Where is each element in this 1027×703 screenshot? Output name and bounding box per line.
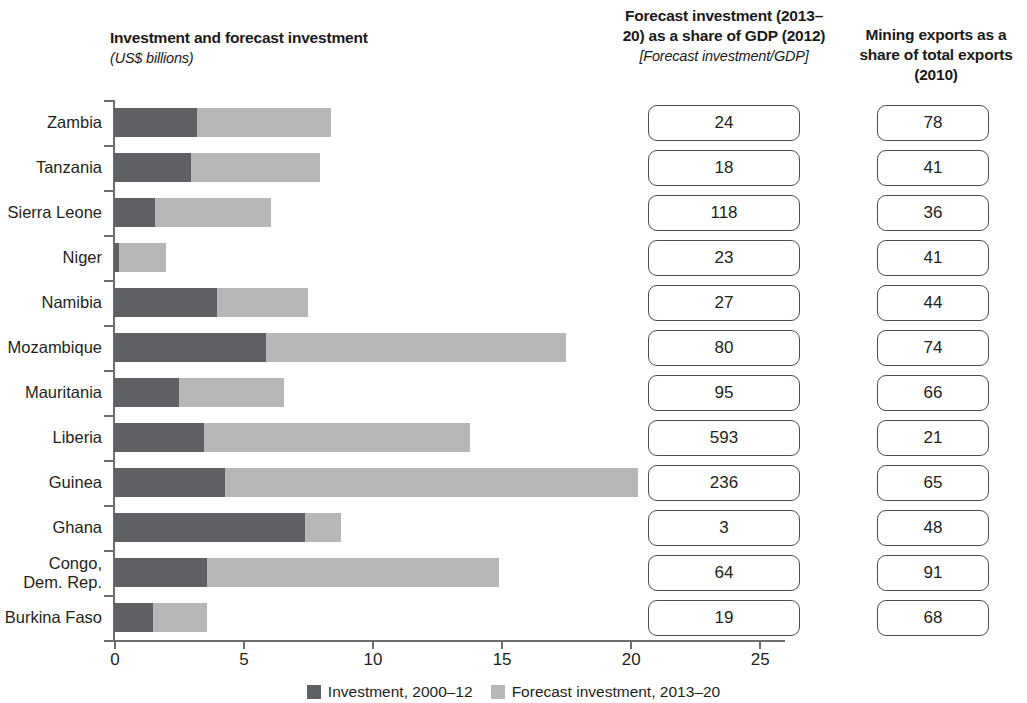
mining-share-value: 48 xyxy=(877,510,989,546)
legend-swatch xyxy=(307,685,321,699)
y-axis-tick xyxy=(104,370,114,372)
stacked-bar xyxy=(114,378,284,407)
x-axis-tick xyxy=(243,640,245,649)
chart-row: Mozambique8074 xyxy=(0,325,1027,370)
stacked-bar xyxy=(114,198,271,227)
y-axis-tick xyxy=(104,415,114,417)
y-axis-tick xyxy=(104,460,114,462)
x-axis-tick xyxy=(630,640,632,649)
bar-segment-investment xyxy=(114,333,266,362)
legend-swatch xyxy=(491,685,505,699)
chart-row: Sierra Leone11836 xyxy=(0,190,1027,235)
country-label: Guinea xyxy=(0,460,112,505)
y-axis-tick xyxy=(104,235,114,237)
bar-segment-forecast xyxy=(207,558,499,587)
chart-row: Namibia2744 xyxy=(0,280,1027,325)
mining-share-value: 21 xyxy=(877,420,989,456)
gdp-share-value: 118 xyxy=(648,195,800,231)
bar-segment-investment xyxy=(114,603,153,632)
bar-segment-forecast xyxy=(225,468,638,497)
chart-row: Liberia59321 xyxy=(0,415,1027,460)
x-axis-tick-label: 15 xyxy=(482,650,522,670)
mining-share-value: 41 xyxy=(877,150,989,186)
stacked-bar xyxy=(114,603,207,632)
x-axis-tick xyxy=(114,640,116,649)
legend-label: Forecast investment, 2013–20 xyxy=(512,683,721,701)
y-axis-tick xyxy=(104,505,114,507)
bar-segment-forecast xyxy=(305,513,341,542)
bar-segment-investment xyxy=(114,378,179,407)
gdp-column-title-block: Forecast investment (2013–20) as a share… xyxy=(615,6,833,66)
bar-segment-investment xyxy=(114,288,217,317)
mining-share-value: 41 xyxy=(877,240,989,276)
chart-rows: Zambia2478Tanzania1841Sierra Leone11836N… xyxy=(0,100,1027,640)
chart-row: Guinea23665 xyxy=(0,460,1027,505)
y-axis-tick xyxy=(104,190,114,192)
bar-segment-forecast xyxy=(204,423,470,452)
gdp-column-subtitle: [Forecast investment/GDP] xyxy=(615,46,833,66)
bar-segment-investment xyxy=(114,153,191,182)
country-label: Ghana xyxy=(0,505,112,550)
stacked-bar xyxy=(114,423,470,452)
stacked-bar xyxy=(114,288,308,317)
chart-row: Congo, Dem. Rep.6491 xyxy=(0,550,1027,595)
country-label: Burkina Faso xyxy=(0,595,112,640)
stacked-bar xyxy=(114,558,499,587)
bar-segment-forecast xyxy=(217,288,307,317)
y-axis-tick xyxy=(104,550,114,552)
gdp-share-value: 64 xyxy=(648,555,800,591)
column-headers: Investment and forecast investment (US$ … xyxy=(0,0,1027,100)
x-axis-tick-label: 20 xyxy=(611,650,651,670)
gdp-share-value: 23 xyxy=(648,240,800,276)
x-axis-tick-label: 25 xyxy=(740,650,780,670)
bar-segment-investment xyxy=(114,198,155,227)
mining-share-value: 74 xyxy=(877,330,989,366)
chart-title: Investment and forecast investment xyxy=(110,29,368,46)
gdp-share-value: 95 xyxy=(648,375,800,411)
stacked-bar xyxy=(114,153,320,182)
mining-column-title-block: Mining exports as a share of total expor… xyxy=(845,25,1027,85)
legend-item: Forecast investment, 2013–20 xyxy=(491,683,721,701)
mining-share-value: 91 xyxy=(877,555,989,591)
gdp-share-value: 3 xyxy=(648,510,800,546)
country-label: Congo, Dem. Rep. xyxy=(0,550,112,595)
country-label: Niger xyxy=(0,235,112,280)
mining-share-value: 66 xyxy=(877,375,989,411)
country-label: Tanzania xyxy=(0,145,112,190)
x-axis-tick-label: 5 xyxy=(224,650,264,670)
chart-units-label: (US$ billions) xyxy=(110,48,510,68)
gdp-share-value: 19 xyxy=(648,600,800,636)
x-axis: 0510152025 xyxy=(0,640,1027,670)
y-axis-tick xyxy=(104,145,114,147)
bar-segment-forecast xyxy=(266,333,565,362)
country-label: Sierra Leone xyxy=(0,190,112,235)
chart-row: Mauritania9566 xyxy=(0,370,1027,415)
bar-segment-forecast xyxy=(191,153,320,182)
bar-segment-investment xyxy=(114,423,204,452)
chart-row: Tanzania1841 xyxy=(0,145,1027,190)
stacked-bar xyxy=(114,468,638,497)
chart-row: Burkina Faso1968 xyxy=(0,595,1027,640)
bar-segment-forecast xyxy=(155,198,271,227)
stacked-bar xyxy=(114,108,331,137)
bar-segment-forecast xyxy=(197,108,331,137)
country-label: Liberia xyxy=(0,415,112,460)
country-label: Zambia xyxy=(0,100,112,145)
bar-segment-forecast xyxy=(153,603,207,632)
chart-row: Niger2341 xyxy=(0,235,1027,280)
gdp-share-value: 24 xyxy=(648,105,800,141)
y-axis-tick xyxy=(104,280,114,282)
mining-share-value: 78 xyxy=(877,105,989,141)
chart-title-block: Investment and forecast investment (US$ … xyxy=(110,28,510,68)
mining-share-value: 36 xyxy=(877,195,989,231)
gdp-share-value: 593 xyxy=(648,420,800,456)
country-label: Mauritania xyxy=(0,370,112,415)
chart-row: Zambia2478 xyxy=(0,100,1027,145)
legend-label: Investment, 2000–12 xyxy=(328,683,473,701)
stacked-bar xyxy=(114,513,341,542)
legend: Investment, 2000–12Forecast investment, … xyxy=(0,680,1027,703)
y-axis-tick xyxy=(104,100,114,102)
mining-column-title: Mining exports as a share of total expor… xyxy=(859,26,1012,83)
y-axis-tick xyxy=(104,325,114,327)
stacked-bar xyxy=(114,243,166,272)
